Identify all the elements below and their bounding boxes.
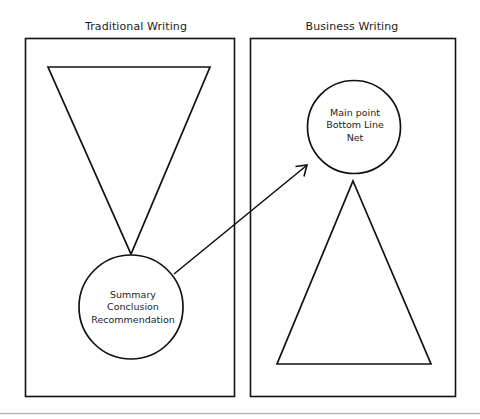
upright-triangle-shape bbox=[277, 181, 431, 364]
business-writing-title: Business Writing bbox=[262, 20, 442, 33]
traditional-writing-title: Traditional Writing bbox=[46, 20, 226, 33]
main-point-circle-label-line-3: Net bbox=[275, 132, 435, 144]
main-point-circle-label: Main point Bottom Line Net bbox=[275, 107, 435, 144]
conclusion-circle-label-line-1: Summary bbox=[53, 289, 213, 301]
conclusion-circle-label-line-3: Recommendation bbox=[53, 314, 213, 326]
conclusion-circle-label-line-2: Conclusion bbox=[53, 301, 213, 313]
diagram-canvas: Traditional Writing Business Writing Sum… bbox=[0, 0, 480, 419]
diagram-vector-layer bbox=[0, 0, 480, 419]
inverted-triangle-shape bbox=[48, 67, 210, 254]
flow-arrow bbox=[174, 165, 307, 274]
conclusion-circle-label: Summary Conclusion Recommendation bbox=[53, 289, 213, 326]
main-point-circle-label-line-2: Bottom Line bbox=[275, 119, 435, 131]
flow-arrow-line bbox=[174, 166, 306, 274]
main-point-circle-label-line-1: Main point bbox=[275, 107, 435, 119]
